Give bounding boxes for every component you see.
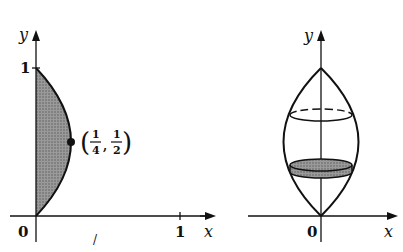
right-y-label: y <box>303 26 314 45</box>
point-y-denominator: 2 <box>113 144 121 157</box>
right-graph <box>200 30 398 242</box>
solid-left-outline <box>284 68 322 216</box>
left-y-label: y <box>18 25 29 44</box>
y-axis-arrow-icon <box>32 30 40 41</box>
stray-mark: / <box>93 233 98 247</box>
point-x-numerator: 1 <box>92 128 100 141</box>
point-separator: , <box>103 139 107 153</box>
svg-text:(: ( <box>80 127 90 157</box>
right-origin-label: 0 <box>307 223 317 241</box>
point-label: ( 1 4 , 1 2 ) <box>80 127 132 157</box>
left-x-tick-label: 1 <box>175 223 185 241</box>
marked-point <box>67 138 75 146</box>
shaded-disk <box>290 159 352 178</box>
left-origin-label: 0 <box>18 223 28 241</box>
right-x-label: x <box>384 222 393 241</box>
left-y-tick-label: 1 <box>20 59 30 77</box>
point-y-numerator: 1 <box>113 128 121 141</box>
right-x-axis-arrow-icon <box>387 212 398 220</box>
left-x-label: x <box>204 222 213 241</box>
point-x-denominator: 4 <box>92 144 100 157</box>
right-y-axis-arrow-icon <box>317 30 325 41</box>
svg-text:): ) <box>122 127 132 157</box>
solid-right-outline <box>321 68 359 216</box>
